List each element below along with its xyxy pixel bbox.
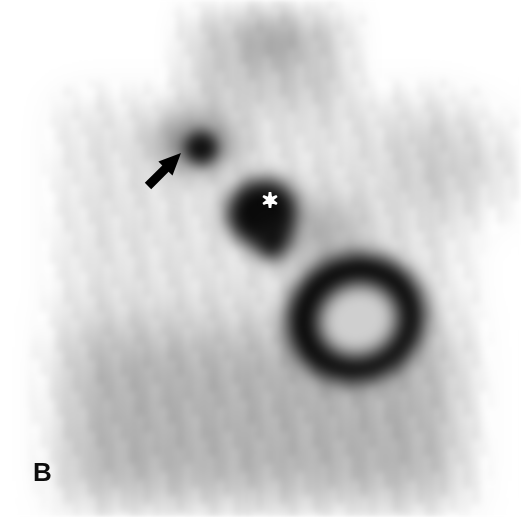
annotation-overlay xyxy=(0,0,521,517)
arrow-icon xyxy=(145,153,181,189)
asterisk-icon xyxy=(262,192,277,208)
scintigraphy-figure: B xyxy=(0,0,521,517)
panel-label: B xyxy=(33,459,52,485)
